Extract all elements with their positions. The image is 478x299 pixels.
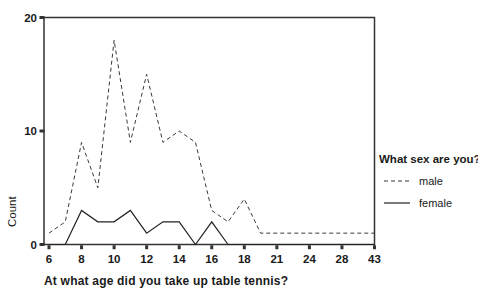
y-tick-0 [40,243,45,246]
x-tick-6 [48,245,51,249]
legend-line-sample-female [384,201,410,205]
legend-item-male: male [384,175,477,187]
y-tick-label-10: 10 [24,125,37,137]
x-tick-28 [340,245,343,249]
legend-item-female: female [384,197,477,209]
x-tick-label-14: 14 [173,253,186,265]
y-tick-label-0: 0 [31,239,37,251]
legend-label-female: female [419,197,452,209]
x-tick-label-8: 8 [78,253,85,265]
x-tick-18 [243,245,246,249]
x-tick-24 [308,245,311,249]
x-tick-21 [275,245,278,249]
legend: What sex are you? malefemale [379,153,477,209]
legend-label-male: male [419,175,443,187]
x-tick-label-18: 18 [238,253,251,265]
x-tick-label-12: 12 [140,253,153,265]
x-tick-label-16: 16 [205,253,218,265]
legend-title: What sex are you? [379,153,477,165]
x-tick-label-24: 24 [303,253,316,265]
x-tick-10 [113,245,116,249]
plot-frame [44,18,375,245]
legend-items: malefemale [379,175,477,209]
series-line-male [49,40,375,233]
series-line-female [49,210,375,244]
y-tick-10 [40,130,45,133]
chart: 0102068101214161821242843 Count At what … [0,0,478,299]
x-tick-12 [145,245,148,249]
x-tick-14 [178,245,181,249]
x-tick-16 [210,245,213,249]
y-axis-title: Count [6,196,18,227]
x-tick-label-43: 43 [368,253,381,265]
x-tick-43 [373,245,376,249]
y-tick-label-20: 20 [24,12,37,24]
x-tick-label-10: 10 [108,253,121,265]
x-tick-8 [80,245,83,249]
x-tick-label-28: 28 [336,253,349,265]
y-tick-20 [40,16,45,19]
plot-area: 0102068101214161821242843 [0,0,478,299]
legend-line-sample-male [384,179,410,183]
x-tick-label-6: 6 [46,253,52,265]
x-axis-title: At what age did you take up table tennis… [44,274,288,288]
x-tick-label-21: 21 [270,253,283,265]
